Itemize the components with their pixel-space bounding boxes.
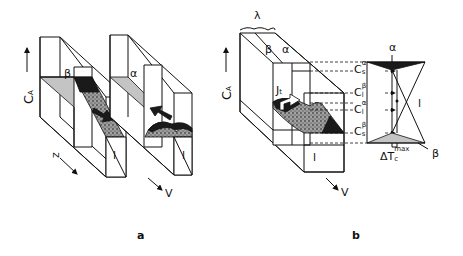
pd-beta-label: β (432, 148, 439, 159)
v-arrow-a (148, 178, 162, 190)
z-axis-label: z (50, 152, 61, 158)
undercooling-label: ΔTmaxc (380, 151, 394, 162)
diagram-canvas (0, 0, 463, 256)
level-cl-alpha: Cαl (354, 104, 362, 115)
v-label-a: V (165, 188, 173, 199)
liquid-label-a-right: l (182, 150, 185, 161)
beta-phase-label-b: β (265, 44, 272, 55)
lamellar-block (240, 33, 344, 172)
v-arrow-b (326, 178, 338, 190)
ca-axis-label-b: CA (220, 86, 233, 100)
panel-label-b: b (352, 230, 360, 241)
z-axis-arrow (60, 158, 77, 174)
ca-axis-label-a: CA (22, 90, 35, 104)
panel-label-a: a (137, 230, 144, 241)
lambda-label: λ (254, 10, 261, 21)
level-cs-beta: Cβs (354, 126, 362, 137)
liquid-label-b: l (313, 152, 316, 163)
panel-b-diagram (226, 28, 428, 190)
alpha-phase-label-a: α (130, 68, 137, 79)
pd-liquid-label: l (418, 98, 421, 109)
flux-label: Jt (276, 85, 282, 96)
level-cs-alpha: Cαs (354, 64, 362, 75)
beta-phase-label-a: β (64, 68, 71, 79)
lambda-brace (240, 28, 275, 30)
panel-a-diagram (27, 35, 192, 190)
level-cl-beta: Cβl (354, 87, 362, 98)
v-label-b: V (341, 187, 349, 198)
liquid-label-a-left: l (113, 150, 116, 161)
alpha-phase-label-b: α (282, 44, 289, 55)
pd-alpha-label: α (389, 42, 396, 53)
